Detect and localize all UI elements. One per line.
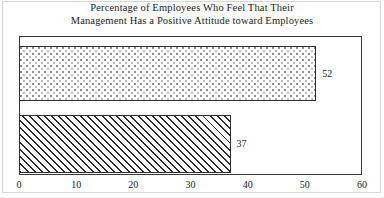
x-tick-label-20: 20 (128, 179, 138, 190)
x-tick-label-50: 50 (300, 179, 310, 190)
chart-title-line-2: Management Has a Positive Attitude towar… (0, 15, 384, 28)
x-tick-label-60: 60 (357, 179, 367, 190)
bar-top[interactable] (19, 46, 316, 101)
x-tick-label-40: 40 (243, 179, 253, 190)
x-tick-label-0: 0 (17, 179, 22, 190)
chart-title-line-1: Percentage of Employees Who Feel That Th… (0, 2, 384, 15)
bar-value-label-bottom: 37 (237, 139, 247, 149)
x-tick-label-10: 10 (71, 179, 81, 190)
bar-value-label-top: 52 (322, 69, 332, 79)
chart-title: Percentage of Employees Who Feel That Th… (0, 2, 384, 27)
x-tick-label-30: 30 (186, 179, 196, 190)
bar-bottom[interactable] (19, 115, 231, 173)
bars-layer (19, 36, 362, 175)
chart-page: Percentage of Employees Who Feel That Th… (0, 0, 384, 198)
